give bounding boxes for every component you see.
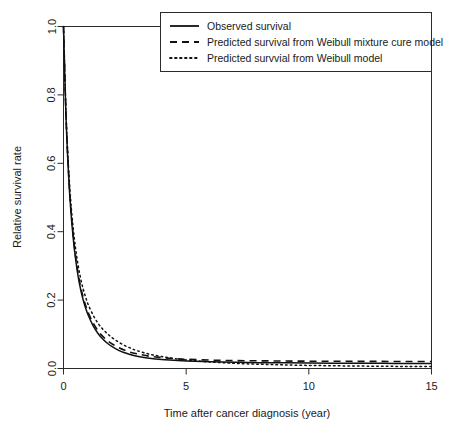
x-tick-label: 15 bbox=[425, 380, 437, 392]
x-tick-label: 10 bbox=[303, 380, 315, 392]
x-tick-label: 0 bbox=[60, 380, 66, 392]
x-axis-title: Time after cancer diagnosis (year) bbox=[164, 407, 331, 419]
y-tick-label: 0.0 bbox=[46, 361, 58, 376]
relative-survival-chart: 051015 0.00.20.40.60.81.0 Time after can… bbox=[0, 0, 450, 435]
chart-legend: Observed survivalPredicted survival from… bbox=[161, 13, 444, 72]
legend-label-2: Predicted survvial from Weibull model bbox=[207, 52, 382, 64]
legend-label-1: Predicted survival from Weibull mixture … bbox=[207, 36, 443, 48]
y-tick-label: 0.8 bbox=[46, 87, 58, 102]
y-tick-label: 1.0 bbox=[46, 19, 58, 34]
y-tick-label: 0.6 bbox=[46, 156, 58, 171]
y-tick-label: 0.2 bbox=[46, 292, 58, 307]
survival-plot-figure: 051015 0.00.20.40.60.81.0 Time after can… bbox=[0, 0, 450, 435]
y-axis-title: Relative survival rate bbox=[11, 146, 23, 248]
y-tick-label: 0.4 bbox=[46, 224, 58, 239]
legend-label-0: Observed survival bbox=[207, 20, 291, 32]
x-tick-label: 5 bbox=[183, 380, 189, 392]
